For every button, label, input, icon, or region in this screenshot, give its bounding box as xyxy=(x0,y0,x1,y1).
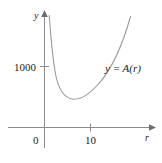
x-axis-label: r xyxy=(145,132,149,143)
origin-label: 0 xyxy=(33,134,39,146)
figure-container: 1000 10 0 y r y = A(r) xyxy=(0,0,162,163)
y-axis-arrow-icon xyxy=(41,10,48,17)
curve-label: y = A(r) xyxy=(104,62,141,75)
area-function-curve xyxy=(49,16,130,100)
y-tick-label-1000: 1000 xyxy=(14,61,37,73)
graph-svg: 1000 10 0 y r y = A(r) xyxy=(0,0,162,163)
x-tick-label-10: 10 xyxy=(85,134,97,146)
y-axis-label: y xyxy=(33,10,39,21)
x-axis-arrow-icon xyxy=(149,124,156,131)
